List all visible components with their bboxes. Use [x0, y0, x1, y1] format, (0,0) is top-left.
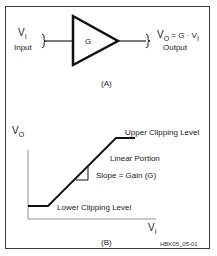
input-symbol: VI — [18, 28, 27, 41]
input-caption: Input — [14, 43, 32, 52]
upper-clipping-label: Upper Clipping Level — [125, 128, 199, 137]
linear-portion-label: Linear Portion — [110, 154, 160, 163]
slope-label: Slope = Gain (G) — [96, 171, 156, 180]
x-axis-label: VI — [148, 223, 157, 236]
figure-id: HBK05_05-01 — [160, 240, 198, 249]
input-brace-icon — [42, 34, 46, 48]
amplifier-triangle-icon — [73, 16, 118, 65]
panel-a-label: (A) — [101, 79, 112, 88]
output-caption: Output — [163, 43, 187, 52]
output-equation: VO = G · VI — [157, 30, 199, 43]
output-brace-icon — [146, 34, 150, 48]
amplifier-label: G — [85, 37, 91, 46]
panel-b-label: (B) — [101, 238, 112, 247]
lower-clipping-label: Lower Clipping Level — [57, 203, 131, 212]
y-axis-label: VO — [12, 126, 24, 139]
